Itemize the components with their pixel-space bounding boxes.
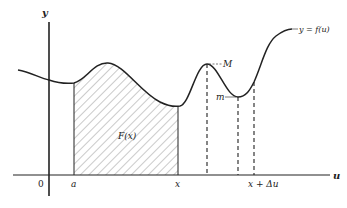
integral-diagram: y 0 u a x x + Δu F(x) M m y = f(u) [0, 0, 347, 208]
u-axis-label: u [333, 170, 340, 181]
tick-label-x: x [175, 179, 180, 189]
max-label: M [222, 59, 233, 69]
area-label: F(x) [117, 131, 137, 141]
y-axis-label: y [41, 7, 49, 18]
origin-label: 0 [38, 179, 44, 189]
tick-label-a: a [71, 179, 76, 189]
curve-label: y = f(u) [298, 25, 330, 34]
tick-label-x-plus-du: x + Δu [248, 179, 279, 189]
min-label: m [216, 92, 225, 102]
curve-f [18, 29, 292, 106]
